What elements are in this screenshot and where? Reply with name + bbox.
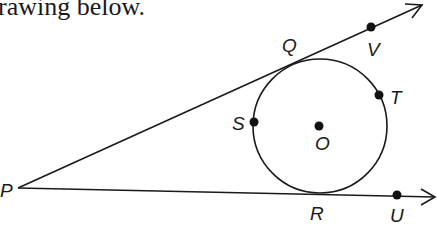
label-s: S <box>232 113 245 134</box>
point-s <box>250 118 259 127</box>
point-t <box>375 91 384 100</box>
geometry-figure: P Q V S T O R U <box>0 0 437 229</box>
label-v: V <box>367 39 382 60</box>
label-u: U <box>390 205 404 226</box>
label-t: T <box>390 87 403 108</box>
label-q: Q <box>282 35 297 56</box>
label-r: R <box>310 203 324 224</box>
point-v <box>367 23 376 32</box>
ray-pu <box>18 188 435 197</box>
point-o <box>315 122 324 131</box>
label-p: P <box>0 180 13 201</box>
point-u <box>393 191 402 200</box>
label-o: O <box>315 133 330 154</box>
ray-pv <box>18 5 422 188</box>
